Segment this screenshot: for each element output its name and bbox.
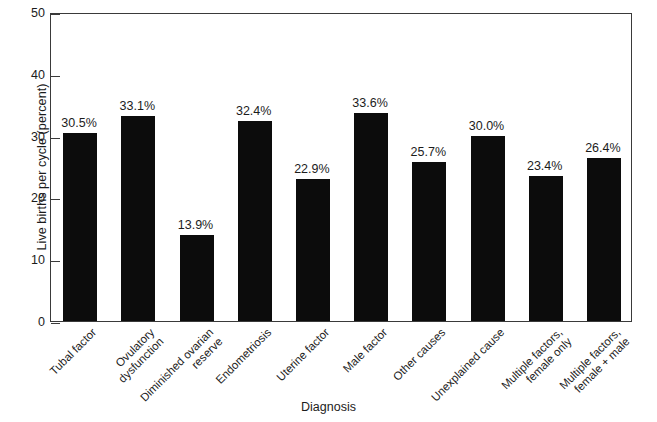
y-axis-tick-label: 20 [5,192,45,205]
y-axis-tick [51,138,60,139]
bar-value-label: 22.9% [282,163,342,176]
x-axis-category-label: Tubal factor [47,326,99,378]
bar[interactable] [529,176,563,321]
bar[interactable] [63,133,97,321]
bar[interactable] [180,235,214,321]
y-axis-tick [51,76,60,77]
x-axis-category-label: Other causes [391,326,448,383]
bar-value-label: 33.6% [340,97,400,110]
y-axis-tick-label: 30 [5,131,45,144]
bar[interactable] [121,116,155,321]
bar[interactable] [354,113,388,321]
bar-value-label: 23.4% [515,160,575,173]
bar[interactable] [471,136,505,321]
y-axis-tick [51,261,60,262]
y-axis-tick [51,323,60,324]
bar[interactable] [296,179,330,321]
bar-value-label: 33.1% [107,100,167,113]
y-axis-tick-label: 40 [5,69,45,82]
bar-value-label: 32.4% [224,105,284,118]
bar-value-label: 26.4% [573,142,633,155]
y-axis-tick-label: 10 [5,254,45,267]
bar-value-label: 30.5% [49,117,109,130]
x-axis-category-label: Uterine factor [274,326,332,384]
bar-value-label: 25.7% [398,146,458,159]
x-axis-title: Diagnosis [0,400,657,414]
x-axis-category-label: Multiple factors, female only [499,326,574,401]
y-axis-tick-label: 0 [5,316,45,329]
bar-value-label: 13.9% [166,219,226,232]
y-axis-title: Live births per cycle (percent) [35,17,49,317]
bar-value-label: 30.0% [457,120,517,133]
y-axis-tick [51,14,60,15]
bar[interactable] [238,121,272,321]
y-axis-tick-label: 50 [5,7,45,20]
y-axis-tick [51,199,60,200]
x-axis-category-label: Endometriosis [213,326,273,386]
bar[interactable] [587,158,621,321]
bar-chart-figure: Live births per cycle (percent) 01020304… [0,0,657,422]
x-axis-category-label: Male factor [341,326,390,375]
bar[interactable] [412,162,446,321]
